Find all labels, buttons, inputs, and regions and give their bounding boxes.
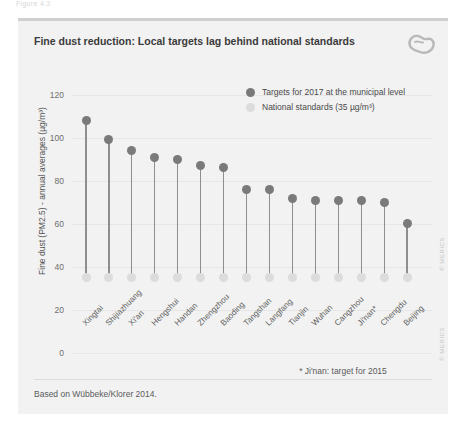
- watermark-right: © MERICS: [439, 237, 445, 271]
- legend-swatch-icon: [246, 88, 255, 97]
- data-point-target[interactable]: [219, 163, 228, 172]
- data-point-national-standard[interactable]: [173, 273, 182, 282]
- data-point-target[interactable]: [127, 146, 136, 155]
- data-point-target[interactable]: [242, 185, 251, 194]
- legend-label: National standards (35 µg/m³): [262, 102, 375, 112]
- stem-line: [338, 200, 339, 277]
- legend-swatch-icon: [246, 103, 255, 112]
- stem-line: [269, 189, 270, 277]
- stem-line: [108, 140, 109, 278]
- x-axis-label: Xi'an: [127, 309, 146, 328]
- data-point-national-standard[interactable]: [403, 273, 412, 282]
- stem-line: [223, 168, 224, 278]
- stem-line: [85, 121, 86, 278]
- data-point-target[interactable]: [104, 135, 113, 144]
- legend-item[interactable]: National standards (35 µg/m³): [246, 102, 405, 112]
- x-axis-label: Ji'nan*: [356, 304, 380, 328]
- gridline: [72, 224, 432, 225]
- data-point-target[interactable]: [380, 198, 389, 207]
- data-point-target[interactable]: [403, 219, 412, 228]
- source-divider: [34, 379, 432, 380]
- stem-line: [406, 224, 407, 278]
- gridline: [72, 181, 432, 182]
- data-point-national-standard[interactable]: [219, 273, 228, 282]
- data-point-national-standard[interactable]: [127, 273, 136, 282]
- data-point-national-standard[interactable]: [380, 273, 389, 282]
- y-axis-tick: 20: [36, 305, 64, 315]
- legend-item[interactable]: Targets for 2017 at the municipal level: [246, 87, 405, 97]
- stem-line: [292, 198, 293, 278]
- y-axis-label: Fine dust (PM2.5) - annual averages (µg/…: [37, 71, 47, 311]
- watermark-bottom-right: © MERICS: [439, 327, 445, 361]
- data-point-target[interactable]: [311, 196, 320, 205]
- data-point-national-standard[interactable]: [150, 273, 159, 282]
- stem-line: [361, 200, 362, 277]
- data-point-target[interactable]: [334, 196, 343, 205]
- stem-line: [246, 189, 247, 277]
- data-point-national-standard[interactable]: [196, 273, 205, 282]
- data-point-target[interactable]: [357, 196, 366, 205]
- figure-caption: Figure 4.3: [16, 0, 51, 7]
- stem-line: [131, 151, 132, 278]
- data-point-target[interactable]: [265, 185, 274, 194]
- data-point-target[interactable]: [196, 161, 205, 170]
- data-point-target[interactable]: [288, 194, 297, 203]
- gridline: [72, 138, 432, 139]
- data-point-target[interactable]: [150, 153, 159, 162]
- data-point-national-standard[interactable]: [334, 273, 343, 282]
- x-axis-label: Tianjin: [287, 304, 310, 327]
- y-axis-tick: 120: [36, 90, 64, 100]
- x-axis-label: Xingtai: [81, 304, 105, 328]
- data-point-national-standard[interactable]: [265, 273, 274, 282]
- data-point-national-standard[interactable]: [242, 273, 251, 282]
- data-point-national-standard[interactable]: [311, 273, 320, 282]
- stem-line: [154, 157, 155, 278]
- stem-line: [200, 166, 201, 278]
- y-axis-tick: 100: [36, 133, 64, 143]
- gridline: [72, 267, 432, 268]
- chart-legend: Targets for 2017 at the municipal levelN…: [246, 87, 405, 117]
- legend-label: Targets for 2017 at the municipal level: [262, 87, 405, 97]
- stem-line: [384, 202, 385, 277]
- data-point-national-standard[interactable]: [104, 273, 113, 282]
- data-point-national-standard[interactable]: [288, 273, 297, 282]
- data-point-target[interactable]: [173, 155, 182, 164]
- y-axis-tick: 40: [36, 262, 64, 272]
- data-point-national-standard[interactable]: [82, 273, 91, 282]
- figure-card: Fine dust reduction: Local targets lag b…: [18, 18, 448, 414]
- y-axis-tick: 60: [36, 219, 64, 229]
- stem-line: [177, 159, 178, 277]
- data-point-target[interactable]: [82, 116, 91, 125]
- y-axis-tick: 0: [36, 348, 64, 358]
- source-note: Based on Wübbeke/Klorer 2014.: [34, 389, 157, 399]
- chart-footnote: * Ji'nan: target for 2015: [258, 366, 428, 376]
- x-axis-label: Beijing: [402, 304, 426, 328]
- data-point-national-standard[interactable]: [357, 273, 366, 282]
- stem-line: [315, 200, 316, 277]
- y-axis-tick: 80: [36, 176, 64, 186]
- x-axis-label: Wuhan: [310, 303, 335, 328]
- gridline: [72, 353, 432, 354]
- plot-area: Fine dust (PM2.5) - annual averages (µg/…: [18, 21, 448, 414]
